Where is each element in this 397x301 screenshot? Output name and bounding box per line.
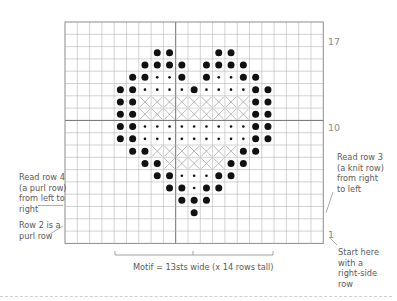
small-dot-symbol bbox=[193, 174, 196, 177]
large-dot-symbol bbox=[129, 98, 136, 105]
small-dot-symbol bbox=[168, 76, 171, 79]
small-dot-symbol bbox=[205, 138, 208, 141]
small-dot-symbol bbox=[217, 138, 220, 141]
cross-symbol bbox=[201, 146, 211, 156]
small-dot-symbol bbox=[181, 88, 184, 91]
dashed-divider bbox=[0, 296, 392, 297]
small-dot-symbol bbox=[205, 125, 208, 128]
cross-symbol bbox=[189, 146, 199, 156]
large-dot-symbol bbox=[264, 86, 271, 93]
large-dot-symbol bbox=[228, 160, 235, 167]
large-dot-symbol bbox=[191, 86, 198, 93]
large-dot-symbol bbox=[141, 148, 148, 155]
cross-symbol bbox=[238, 97, 248, 107]
cross-symbol bbox=[164, 109, 174, 119]
cross-symbol bbox=[177, 146, 187, 156]
cross-symbol bbox=[177, 158, 187, 168]
large-dot-symbol bbox=[252, 123, 259, 130]
small-dot-symbol bbox=[156, 76, 159, 79]
cross-symbol bbox=[226, 97, 236, 107]
large-dot-symbol bbox=[215, 62, 222, 69]
large-dot-symbol bbox=[129, 86, 136, 93]
large-dot-symbol bbox=[215, 172, 222, 179]
cross-symbol bbox=[226, 146, 236, 156]
row-number-label: 17 bbox=[328, 36, 340, 47]
cross-symbol bbox=[152, 109, 162, 119]
large-dot-symbol bbox=[203, 62, 210, 69]
large-dot-symbol bbox=[154, 62, 161, 69]
cross-symbol bbox=[177, 109, 187, 119]
bracket-path bbox=[115, 251, 273, 255]
small-dot-symbol bbox=[181, 138, 184, 141]
large-dot-symbol bbox=[154, 49, 161, 56]
small-dot-symbol bbox=[242, 138, 245, 141]
large-dot-symbol bbox=[178, 74, 185, 81]
cross-symbol bbox=[201, 97, 211, 107]
large-dot-symbol bbox=[129, 123, 136, 130]
small-dot-symbol bbox=[156, 125, 159, 128]
large-dot-symbol bbox=[141, 160, 148, 167]
cross-symbol bbox=[214, 158, 224, 168]
large-dot-symbol bbox=[129, 135, 136, 142]
small-dot-symbol bbox=[181, 125, 184, 128]
cross-symbol bbox=[238, 109, 248, 119]
large-dot-symbol bbox=[178, 197, 185, 204]
small-dot-symbol bbox=[230, 76, 233, 79]
small-dot-symbol bbox=[156, 88, 159, 91]
cross-symbol bbox=[201, 158, 211, 168]
motif-width-bracket bbox=[115, 251, 273, 255]
large-dot-symbol bbox=[166, 185, 173, 192]
large-dot-symbol bbox=[129, 74, 136, 81]
large-dot-symbol bbox=[228, 172, 235, 179]
large-dot-symbol bbox=[166, 49, 173, 56]
leader-row-3 bbox=[326, 192, 333, 213]
annotation-read-row-3: Read row 3 (a knit row) from right to le… bbox=[337, 152, 384, 194]
cross-symbol bbox=[226, 109, 236, 119]
motif-caption: Motif = 13sts wide (x 14 rows tall) bbox=[133, 262, 273, 273]
small-dot-symbol bbox=[230, 125, 233, 128]
large-dot-symbol bbox=[166, 172, 173, 179]
small-dot-symbol bbox=[144, 125, 147, 128]
large-dot-symbol bbox=[264, 98, 271, 105]
cross-symbol bbox=[152, 146, 162, 156]
small-dot-symbol bbox=[242, 125, 245, 128]
small-dot-symbol bbox=[217, 125, 220, 128]
small-dot-symbol bbox=[217, 76, 220, 79]
large-dot-symbol bbox=[240, 74, 247, 81]
large-dot-symbol bbox=[141, 74, 148, 81]
large-dot-symbol bbox=[252, 148, 259, 155]
large-dot-symbol bbox=[178, 185, 185, 192]
cross-symbol bbox=[140, 97, 150, 107]
large-dot-symbol bbox=[240, 160, 247, 167]
large-dot-symbol bbox=[117, 123, 124, 130]
small-dot-symbol bbox=[193, 125, 196, 128]
small-dot-symbol bbox=[217, 88, 220, 91]
cross-symbol bbox=[189, 158, 199, 168]
cross-symbol bbox=[164, 97, 174, 107]
small-dot-symbol bbox=[230, 88, 233, 91]
large-dot-symbol bbox=[240, 62, 247, 69]
large-dot-symbol bbox=[154, 172, 161, 179]
cross-symbol bbox=[214, 97, 224, 107]
small-dot-symbol bbox=[205, 174, 208, 177]
large-dot-symbol bbox=[252, 74, 259, 81]
small-dot-symbol bbox=[144, 88, 147, 91]
small-dot-symbol bbox=[230, 138, 233, 141]
small-dot-symbol bbox=[168, 88, 171, 91]
large-dot-symbol bbox=[141, 62, 148, 69]
large-dot-symbol bbox=[215, 49, 222, 56]
annotation-start-here: Start here with a right-side row bbox=[338, 247, 379, 289]
large-dot-symbol bbox=[117, 86, 124, 93]
large-dot-symbol bbox=[117, 98, 124, 105]
cross-symbol bbox=[164, 146, 174, 156]
row-number-label: 10 bbox=[328, 122, 340, 133]
cross-symbol bbox=[214, 146, 224, 156]
large-dot-symbol bbox=[203, 185, 210, 192]
large-dot-symbol bbox=[264, 123, 271, 130]
small-dot-symbol bbox=[168, 138, 171, 141]
large-dot-symbol bbox=[215, 185, 222, 192]
cross-symbol bbox=[152, 97, 162, 107]
small-dot-symbol bbox=[156, 138, 159, 141]
large-dot-symbol bbox=[129, 111, 136, 118]
small-dot-symbol bbox=[193, 138, 196, 141]
